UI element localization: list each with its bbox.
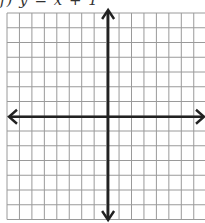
coordinate-plane — [0, 0, 205, 223]
